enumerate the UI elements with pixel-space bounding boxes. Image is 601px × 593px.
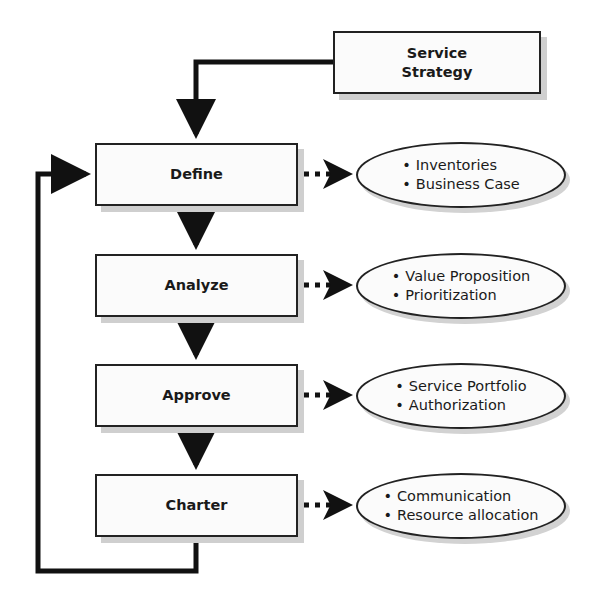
step-approve-label: Approve bbox=[162, 386, 230, 405]
charter-outputs-list: Communication Resource allocation bbox=[383, 487, 538, 525]
output-item: Service Portfolio bbox=[395, 377, 526, 396]
approve-outputs-list: Service Portfolio Authorization bbox=[395, 377, 526, 415]
step-analyze-box: Analyze bbox=[95, 254, 298, 317]
service-strategy-box: Service Strategy bbox=[333, 31, 541, 94]
step-charter-box: Charter bbox=[95, 474, 298, 537]
step-define-label: Define bbox=[170, 165, 223, 184]
output-item: Business Case bbox=[402, 175, 520, 194]
arrow-strategy-to-define bbox=[196, 62, 333, 134]
approve-outputs-ellipse: Service Portfolio Authorization bbox=[356, 363, 566, 429]
step-charter-label: Charter bbox=[166, 496, 228, 515]
charter-outputs-ellipse: Communication Resource allocation bbox=[356, 473, 566, 539]
define-outputs-ellipse: Inventories Business Case bbox=[356, 142, 566, 208]
output-item: Authorization bbox=[395, 396, 526, 415]
analyze-outputs-list: Value Proposition Prioritization bbox=[392, 267, 530, 305]
output-item: Resource allocation bbox=[383, 506, 538, 525]
step-define-box: Define bbox=[95, 143, 298, 206]
define-outputs-list: Inventories Business Case bbox=[402, 156, 520, 194]
analyze-outputs-ellipse: Value Proposition Prioritization bbox=[356, 253, 566, 319]
output-item: Inventories bbox=[402, 156, 520, 175]
step-analyze-label: Analyze bbox=[164, 276, 228, 295]
step-approve-box: Approve bbox=[95, 364, 298, 427]
output-item: Communication bbox=[383, 487, 538, 506]
service-strategy-line2: Strategy bbox=[402, 63, 473, 82]
output-item: Value Proposition bbox=[392, 267, 530, 286]
service-strategy-line1: Service bbox=[407, 44, 467, 63]
output-item: Prioritization bbox=[392, 286, 530, 305]
